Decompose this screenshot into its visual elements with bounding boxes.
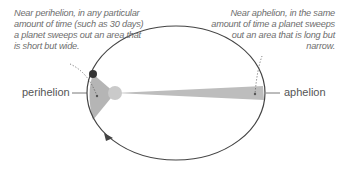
aphelion-swept-area (115, 86, 264, 100)
aphelion-label: aphelion (284, 86, 326, 98)
aphelion-leader-dot (254, 93, 256, 95)
perihelion-annotation: Near perihelion, in any particular amoun… (14, 8, 144, 52)
kepler-second-law-diagram: Near perihelion, in any particular amoun… (0, 0, 341, 170)
perihelion-leader-dot (96, 95, 98, 97)
aphelion-annotation: Near aphelion, in the same amount of tim… (205, 8, 335, 52)
perihelion-label: perihelion (22, 86, 70, 98)
sun-icon (108, 86, 122, 100)
planet-icon (89, 70, 97, 78)
